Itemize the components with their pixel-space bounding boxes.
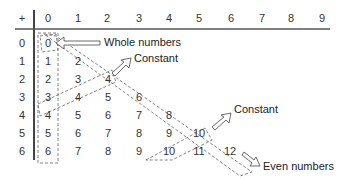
table-cell: 4 bbox=[105, 73, 111, 85]
table-cell: 8 bbox=[166, 109, 172, 121]
table-cell: 1 bbox=[45, 55, 51, 67]
column-header: 9 bbox=[319, 12, 325, 24]
table-cell: 3 bbox=[45, 91, 51, 103]
even-numbers-label: Even numbers bbox=[263, 160, 334, 172]
column-header: 8 bbox=[288, 12, 294, 24]
table-cell: 6 bbox=[45, 145, 51, 157]
table-cell: 2 bbox=[75, 55, 81, 67]
whole-numbers-arrow bbox=[56, 37, 100, 49]
table-cell: 3 bbox=[75, 73, 81, 85]
table-cell: 10 bbox=[163, 145, 175, 157]
table-cell: 4 bbox=[75, 91, 81, 103]
column-header: 2 bbox=[104, 12, 110, 24]
table-cell: 9 bbox=[136, 145, 142, 157]
column-header: 4 bbox=[166, 12, 172, 24]
table-cell: 4 bbox=[45, 109, 51, 121]
column-header: 0 bbox=[45, 12, 51, 24]
table-cell: 11 bbox=[193, 145, 204, 157]
column-header: 3 bbox=[136, 12, 142, 24]
row-header: 3 bbox=[19, 91, 25, 103]
table-cell: 9 bbox=[166, 127, 172, 139]
operator-symbol: + bbox=[19, 12, 25, 24]
column-header: 5 bbox=[196, 12, 202, 24]
constant-arrow-1 bbox=[112, 58, 131, 76]
table-cell: 5 bbox=[45, 127, 51, 139]
column-header: 6 bbox=[228, 12, 234, 24]
table-cell: 12 bbox=[224, 145, 236, 157]
whole-numbers-label: Whole numbers bbox=[104, 36, 181, 48]
table-cell: 10 bbox=[193, 127, 205, 139]
row-header: 0 bbox=[19, 37, 25, 49]
table-cell: 5 bbox=[105, 91, 111, 103]
row-header: 1 bbox=[19, 55, 25, 67]
row-header: 5 bbox=[19, 127, 25, 139]
table-cell: 7 bbox=[105, 127, 111, 139]
even-numbers-arrow bbox=[242, 152, 260, 166]
constant-label-2: Constant bbox=[234, 103, 278, 115]
table-cell: 8 bbox=[136, 127, 142, 139]
column-header: 7 bbox=[259, 12, 265, 24]
row-header: 4 bbox=[19, 109, 25, 121]
table-cell: 6 bbox=[75, 127, 81, 139]
table-cell: 2 bbox=[45, 73, 51, 85]
table-cell: 6 bbox=[105, 109, 111, 121]
constant-arrow-2 bbox=[212, 113, 231, 130]
table-cell: 0 bbox=[45, 37, 51, 49]
table-cell: 7 bbox=[75, 145, 81, 157]
table-cell: 5 bbox=[75, 109, 81, 121]
row-header: 6 bbox=[19, 145, 25, 157]
table-cell: 7 bbox=[136, 109, 142, 121]
table-cell: 8 bbox=[105, 145, 111, 157]
constant-label-1: Constant bbox=[134, 52, 178, 64]
row-header: 2 bbox=[19, 73, 25, 85]
column-header: 1 bbox=[75, 12, 81, 24]
table-cell: 6 bbox=[136, 91, 142, 103]
